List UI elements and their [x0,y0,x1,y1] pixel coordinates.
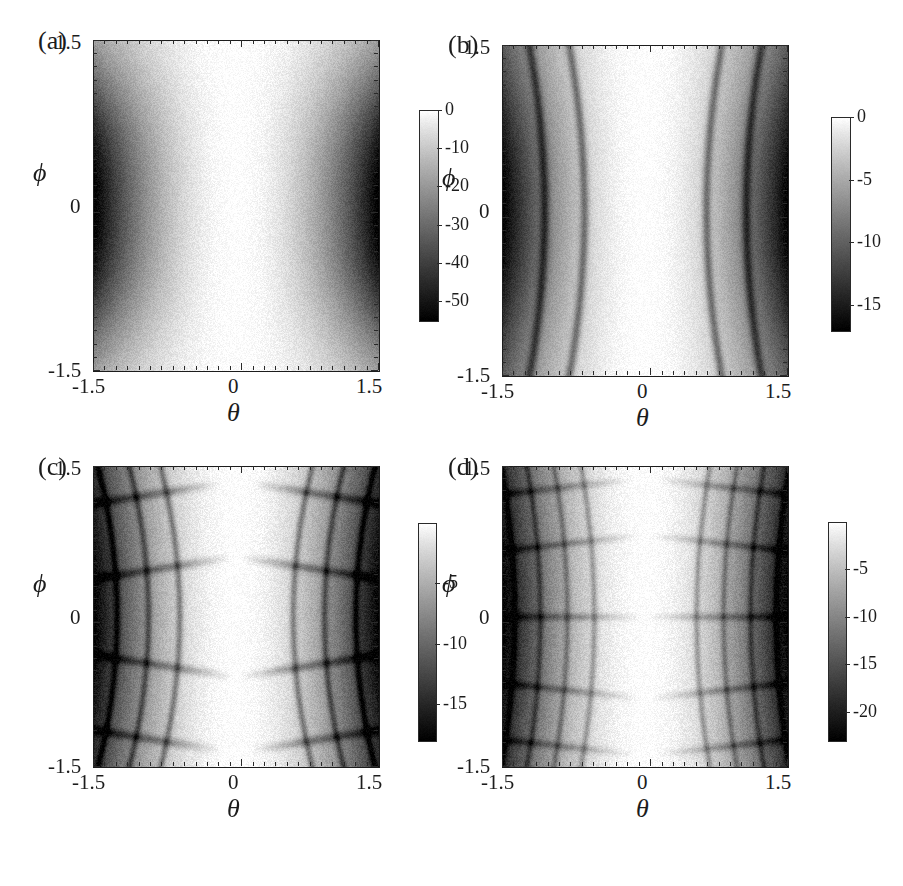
panel-a-yaxis-tick [93,146,97,147]
panel-d-yaxis-tick [502,610,506,611]
panel-a-yaxis-tick [93,225,97,226]
panel-d-yaxis-tick-right [783,514,787,515]
panel-d-xaxis-tick-top [536,466,537,470]
panel-c-yaxis-tick-right [374,646,378,647]
panel-a-yaxis-tick [93,185,97,186]
panel-b-xaxis-tick-top [730,45,731,49]
panel-b-colorbar [831,117,851,332]
panel-a-yaxis-tick-right [374,198,378,199]
panel-a-yaxis-tick-right [374,291,378,292]
panel-b-yaxis-tick-right [783,190,787,191]
panel-c-yaxis-tick-right [374,550,378,551]
panel-c-plot-area [93,466,380,768]
panel-c-xaxis-tick [298,762,299,766]
panel-a-yaxis-tick [93,172,97,173]
panel-a-xaxis-tick [378,363,379,370]
panel-b-plot-area [502,45,789,377]
panel-a-yaxis-tick [93,106,97,107]
panel-b-xlabel: θ [636,403,649,433]
panel-c-xaxis-tick-top [116,466,117,470]
panel-c-yaxis-tick [93,706,97,707]
panel-d-yaxis-tick-right [783,586,787,587]
panel-d-yaxis-tick-right [780,622,787,623]
panel-b-yaxis-tick [502,243,506,244]
panel-c-yaxis-tick [93,562,97,563]
panel-c-xaxis-tick [161,762,162,766]
panel-a-xaxis-tick-top [287,40,288,44]
colorbar-tick-mark [437,110,442,111]
panel-b-yaxis-tick-right [783,256,787,257]
panel-b-yaxis-tick-right [783,177,787,178]
panel-b-xaxis-tick-top [627,45,628,49]
panel-b-yaxis-tick-right [783,164,787,165]
colorbar-tick-label: 0 [445,99,454,120]
figure-root: (a) 1.5 0 -1.5 -1.5 0 1.5 ϕ θ 0-10-20-30… [0,0,903,886]
panel-d-yaxis-tick-right [780,466,787,467]
panel-d-xaxis-tick [787,759,788,766]
panel-c-yaxis-tick-right [374,490,378,491]
panel-a-xaxis-tick [332,366,333,370]
panel-c-yaxis-tick-right [374,514,378,515]
panel-a-xaxis-tick-top [196,40,197,44]
panel-a-yaxis-tick [93,198,97,199]
panel-b-yaxis-tick-right [783,362,787,363]
panel-c-xaxis-tick [287,762,288,766]
panel-b-yaxis-tick [502,164,506,165]
panel-a-yaxis-tick-right [374,93,378,94]
panel-b-xaxis-tick-top [673,45,674,49]
panel-d-xaxis-tick [536,762,537,766]
panel-c-yaxis-tick-right [374,754,378,755]
colorbar-tick-label: -40 [445,252,469,273]
panel-b-yaxis-tick [502,309,506,310]
colorbar-tick-label: 0 [857,106,866,127]
panel-a-xaxis-tick-top [139,40,140,44]
panel-a-yaxis-tick-right [374,278,378,279]
colorbar-tick-mark [437,263,442,264]
panel-a-xaxis-tick-top [116,40,117,44]
panel-c-yaxis-tick-right [371,766,378,767]
colorbar-tick-mark [435,644,440,645]
panel-d-yaxis-tick-right [783,490,787,491]
panel-c-yaxis-tick [93,514,97,515]
panel-d-xaxis-tick-top [502,466,503,473]
panel-a-xaxis-tick-top [207,40,208,44]
panel-c-xlabel: θ [227,794,240,824]
panel-c-yaxis-tick [93,622,100,623]
panel-c-yaxis-tick [93,670,97,671]
colorbar-tick-label: -15 [853,653,877,674]
panel-d-ytick-mid: 0 [479,605,490,630]
panel-b-xaxis-tick-top [605,45,606,49]
colorbar-tick-mark [849,117,854,118]
panel-c-heatmap [94,467,379,767]
panel-b-yaxis-tick [502,71,506,72]
colorbar-tick-mark [845,712,850,713]
panel-b-xaxis-tick [582,371,583,375]
colorbar-tick-label: -5 [857,169,872,190]
panel-a-xaxis-tick [253,366,254,370]
panel-a-yaxis-tick [93,66,97,67]
panel-b-yaxis-tick [502,375,509,376]
panel-c-xaxis-tick [127,762,128,766]
panel-d-xtick-left: -1.5 [481,770,514,795]
panel-c-xaxis-tick-top [104,466,105,470]
panel-c-xaxis-tick-top [253,466,254,470]
panel-c-xaxis-tick-top [139,466,140,470]
panel-c-yaxis-tick [93,598,97,599]
panel-c-yaxis-tick [93,478,97,479]
panel-a-xlabel: θ [227,398,240,428]
panel-b-xaxis-tick [559,371,560,375]
colorbar-tick-mark [849,305,854,306]
panel-c-xaxis-tick [104,762,105,766]
panel-c-yaxis-tick-right [374,730,378,731]
panel-c-yaxis-tick-right [371,466,378,467]
panel-c-xaxis-tick [116,762,117,766]
panel-b-yaxis-tick [502,124,506,125]
panel-a-yaxis-tick-right [374,132,378,133]
panel-a-yaxis-tick [93,357,97,358]
panel-a-ytick-mid: 0 [70,194,81,219]
panel-d-yaxis-tick [502,646,506,647]
panel-b-xaxis-tick-top [593,45,594,49]
panel-c-yaxis-tick-right [374,634,378,635]
panel-d-xaxis-tick-top [730,466,731,470]
panel-a-yaxis-tick-right [374,344,378,345]
